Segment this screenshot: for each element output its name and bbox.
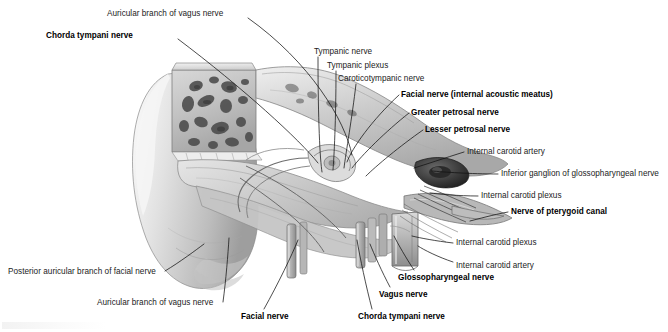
page-artifact <box>2 322 106 329</box>
leader-internal-carotid-plexus-lower <box>412 236 453 243</box>
label-internal-carotid-artery-lower: Internal carotid artery <box>456 262 534 271</box>
label-facial-nerve-bottom: Facial nerve <box>241 313 289 322</box>
label-greater-petrosal-nerve: Greater petrosal nerve <box>411 109 499 118</box>
leader-chorda-tympani-bottom <box>357 240 372 309</box>
leader-internal-carotid-artery-lower <box>418 246 453 262</box>
label-chorda-tympani-top: Chorda tympani nerve <box>46 32 133 41</box>
leader-internal-carotid-artery-upper <box>414 152 464 168</box>
leader-greater-petrosal-nerve <box>352 113 409 168</box>
label-facial-nerve-iam: Facial nerve (internal acoustic meatus) <box>401 91 553 100</box>
leader-nerve-of-pterygoid-canal <box>470 212 508 221</box>
label-lesser-petrosal-nerve: Lesser petrosal nerve <box>425 126 510 135</box>
label-vagus-nerve: Vagus nerve <box>379 291 427 300</box>
leader-facial-nerve-iam <box>347 95 399 162</box>
label-auricular-branch-vagus-bottom: Auricular branch of vagus nerve <box>97 299 213 308</box>
label-tympanic-nerve: Tympanic nerve <box>314 48 372 57</box>
leader-glossopharyngeal-nerve <box>394 236 414 270</box>
leader-internal-carotid-plexus-upper <box>430 193 478 196</box>
leader-auricular-branch-vagus-top <box>248 18 352 155</box>
leader-inferior-ganglion-glossopharyngeal <box>432 171 498 174</box>
leader-chorda-tympani-top <box>178 39 318 163</box>
leader-auricular-branch-vagus-bottom <box>223 238 229 302</box>
label-nerve-of-pterygoid-canal: Nerve of pterygoid canal <box>511 208 607 217</box>
label-internal-carotid-artery-upper: Internal carotid artery <box>467 148 545 157</box>
label-glossopharyngeal-nerve: Glossopharyngeal nerve <box>398 274 494 283</box>
leader-lesser-petrosal-nerve <box>366 130 423 176</box>
label-internal-carotid-plexus-upper: Internal carotid plexus <box>481 192 562 201</box>
label-chorda-tympani-bottom: Chorda tympani nerve <box>358 313 445 322</box>
label-internal-carotid-plexus-lower: Internal carotid plexus <box>456 239 537 248</box>
leader-caroticotympanic-nerve <box>344 84 356 168</box>
label-auricular-branch-vagus-top: Auricular branch of vagus nerve <box>107 10 223 19</box>
leader-posterior-auricular-branch-facial <box>165 244 204 271</box>
leader-facial-nerve-bottom <box>264 240 298 309</box>
label-caroticotympanic-nerve: Caroticotympanic nerve <box>338 75 424 84</box>
label-posterior-auricular-branch-facial: Posterior auricular branch of facial ner… <box>8 268 156 277</box>
label-inferior-ganglion-glossopharyngeal: Inferior ganglion of glossopharyngeal ne… <box>501 170 659 179</box>
leader-tympanic-plexus <box>333 71 336 170</box>
label-tympanic-plexus: Tympanic plexus <box>327 62 388 71</box>
leader-tympanic-nerve <box>318 57 322 172</box>
leader-vagus-nerve <box>370 244 390 287</box>
anatomical-figure: Auricular branch of vagus nerveChorda ty… <box>0 0 668 332</box>
